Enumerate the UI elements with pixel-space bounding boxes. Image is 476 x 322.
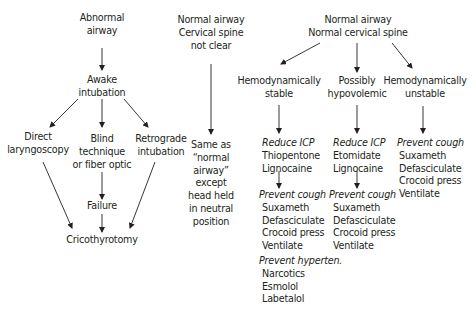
drug-item: Crocoid press [399,175,464,188]
drug-item: Defasciculate [262,215,326,228]
node-stable-line: Hemodynamically [237,75,320,88]
node-retro-line: Retrograde [135,133,186,146]
arrow-normal-to-stable [281,43,320,64]
stable-prevent-cough-block: Prevent cough Suxameth Defasciculate Cro… [262,189,326,253]
note-line: in neutral [188,203,234,216]
node-awake-line: intubation [79,87,126,100]
node-direct-line: Direct [7,131,69,144]
note-line: position [188,216,234,229]
node-abnormal-airway-line: Abnormal [80,12,125,25]
drug-item: Crocoid press [262,227,326,240]
unstable-prevent-cough-block: Prevent cough Suxameth Defasciculate Cro… [399,137,464,201]
node-blind-line: Blind [73,133,132,146]
node-blind-line: or fiber optic [73,159,132,172]
note-line: “normal [188,152,234,165]
node-unstable-line: Hemodynamically [383,75,466,88]
drug-item: Thiopentone [262,150,320,163]
drug-item: Lignocaine [262,163,320,176]
node-unstable-line: unstable [383,88,466,101]
arrow-awake-to-retro [124,99,148,127]
node-failure: Failure [87,200,117,213]
node-stable-line: stable [237,88,320,101]
node-cspine-line: not clear [177,40,244,53]
drug-item: Suxameth [262,202,326,215]
node-hemodynamically-stable: Hemodynamically stable [237,75,320,101]
node-direct-line: laryngoscopy [7,144,69,157]
node-hemodynamically-unstable: Hemodynamically unstable [383,75,466,101]
stable-prevent-hyperten-block: Prevent hyperten. Narcotics Esmolol Labe… [262,255,342,306]
node-blind-technique: Blind technique or fiber optic [73,133,132,171]
prevent-cough-heading: Prevent cough [397,137,464,150]
drug-item: Ventilate [262,240,326,253]
node-normal-line: Normal airway [308,14,408,27]
drug-item: Ventilate [399,188,464,201]
node-direct-laryngoscopy: Direct laryngoscopy [7,131,69,157]
node-abnormal-airway-line: airway [80,25,125,38]
reduce-icp-heading: Reduce ICP [262,137,320,150]
node-same-as-normal-note: Same as “normal airway” except head held… [188,139,234,229]
node-possibly-hypovolemic: Possibly hypovolemic [328,75,387,101]
node-normal-airway-normal-spine: Normal airway Normal cervical spine [308,14,408,40]
node-hypo-line: Possibly [328,75,387,88]
node-normal-line: Normal cervical spine [308,27,408,40]
arrow-direct-to-crico [43,162,72,228]
node-cspine-line: Normal airway [177,14,244,27]
prevent-cough-heading: Prevent cough [329,189,396,202]
node-cspine-not-clear: Normal airway Cervical spine not clear [177,14,244,52]
node-hypo-line: hypovolemic [328,88,387,101]
prevent-hyperten-heading: Prevent hyperten. [259,255,342,268]
drug-item: Defasciculate [333,215,396,228]
stable-reduce-icp-block: Reduce ICP Thiopentone Lignocaine [262,137,320,175]
node-awake-intubation: Awake intubation [79,74,126,100]
drug-item: Etomidate [333,150,385,163]
drug-item: Crocoid press [333,227,396,240]
node-blind-line: technique [73,146,132,159]
drug-item: Narcotics [262,268,342,281]
drug-item: Suxameth [333,202,396,215]
node-retro-line: intubation [135,146,186,159]
drug-item: Defasciculate [399,163,464,176]
drug-item: Suxameth [399,150,464,163]
hypo-prevent-cough-block: Prevent cough Suxameth Defasciculate Cro… [331,189,396,253]
drug-item: Lignocaine [333,163,385,176]
note-line: head held [188,190,234,203]
drug-item: Esmolol [262,281,342,294]
note-line: except [188,177,234,190]
hypo-reduce-icp-block: Reduce ICP Etomidate Lignocaine [333,137,385,175]
node-awake-line: Awake [79,74,126,87]
arrow-normal-to-unstable [392,43,412,68]
drug-item: Ventilate [333,240,396,253]
node-retrograde-intubation: Retrograde intubation [135,133,186,159]
drug-item: Labetalol [262,293,342,306]
arrow-retro-to-crico [130,162,155,228]
prevent-cough-heading: Prevent cough [259,189,326,202]
reduce-icp-heading: Reduce ICP [333,137,385,150]
node-cricothyrotomy: Cricothyrotomy [66,234,137,247]
arrow-awake-to-direct [50,99,78,127]
note-line: airway” [188,165,234,178]
node-abnormal-airway: Abnormal airway [80,12,125,38]
node-cspine-line: Cervical spine [177,27,244,40]
note-line: Same as [188,139,234,152]
